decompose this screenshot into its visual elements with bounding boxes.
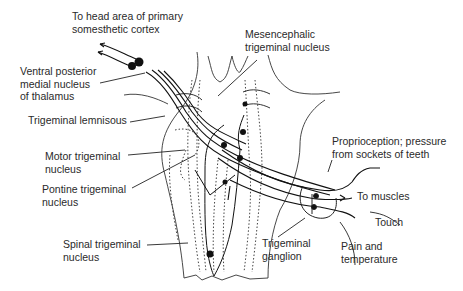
label-line: of thalamus (20, 90, 96, 103)
label-line: Proprioception; pressure (332, 135, 446, 148)
leader-lines (100, 60, 400, 265)
label-motor-nucleus: Motor trigeminal nucleus (45, 150, 120, 175)
label-line: temperature (341, 253, 398, 266)
label-line: nucleus (45, 163, 120, 176)
label-proprioception: Proprioception; pressure from sockets of… (332, 135, 446, 160)
label-line: To head area of primary (72, 10, 183, 23)
label-vpm: Ventral posterior medial nucleus of thal… (20, 65, 96, 103)
label-line: ganglion (262, 250, 311, 263)
label-mesencephalic-nucleus: Mesencephalic trigeminal nucleus (245, 28, 330, 53)
label-line: Motor trigeminal (45, 150, 120, 163)
label-line: trigeminal nucleus (245, 41, 330, 54)
label-touch: Touch (375, 216, 403, 229)
label-line: nucleus (63, 251, 141, 264)
label-line: Touch (375, 216, 403, 229)
label-line: nucleus (42, 196, 126, 209)
label-line: Trigeminal (262, 237, 311, 250)
label-line: Trigeminal lemnisous (28, 114, 127, 127)
label-line: somesthetic cortex (72, 23, 183, 36)
label-line: Mesencephalic (245, 28, 330, 41)
label-line: Spinal trigeminal (63, 238, 141, 251)
label-pain-temperature: Pain and temperature (341, 240, 398, 265)
label-trigeminal-ganglion: Trigeminal ganglion (262, 237, 311, 262)
label-lemniscus: Trigeminal lemnisous (28, 114, 127, 127)
label-line: medial nucleus (20, 78, 96, 91)
label-line: Pain and (341, 240, 398, 253)
label-line: Ventral posterior (20, 65, 96, 78)
label-to-muscles: To muscles (357, 190, 410, 203)
label-line: Pontine trigeminal (42, 183, 126, 196)
label-line: To muscles (357, 190, 410, 203)
label-pontine-nucleus: Pontine trigeminal nucleus (42, 183, 126, 208)
label-line: from sockets of teeth (332, 148, 446, 161)
label-spinal-nucleus: Spinal trigeminal nucleus (63, 238, 141, 263)
label-cortex: To head area of primary somesthetic cort… (72, 10, 183, 35)
